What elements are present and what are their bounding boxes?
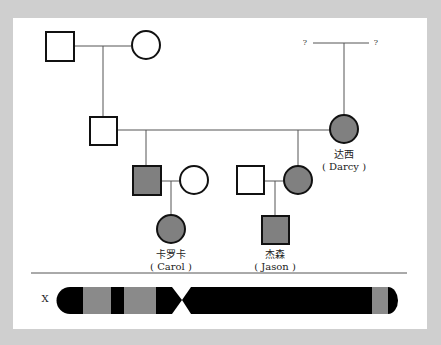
gen1-father-square (46, 32, 74, 61)
pedigree-diagram: ? ? 达西 ( Darcy ) 卡罗卡 ( Carol ) 杰森 ( Jaso… (0, 0, 441, 345)
unknown-parent-right: ? (374, 38, 378, 47)
gen3-daughter-circle (284, 166, 312, 194)
gen3-daughter-husband-square (237, 166, 264, 194)
chromosome-label: X (41, 293, 49, 304)
carol-name-cn: 卡罗卡 (156, 248, 186, 260)
jason-name-cn: 杰森 (265, 248, 285, 260)
jason-name-en: ( Jason ) (254, 261, 296, 272)
unknown-parent-left: ? (303, 38, 307, 47)
gen3-son-wife-circle (180, 166, 208, 194)
x-chromosome (57, 287, 399, 314)
carol-name-en: ( Carol ) (150, 261, 192, 272)
carol-circle (157, 215, 185, 243)
darcy-circle (330, 115, 358, 143)
gen2-father-square (90, 117, 117, 145)
darcy-name-cn: 达西 (334, 149, 354, 160)
jason-square (262, 216, 289, 244)
darcy-name-en: ( Darcy ) (322, 161, 366, 172)
gen3-son-square (133, 166, 161, 195)
gen1-mother-circle (132, 31, 160, 59)
